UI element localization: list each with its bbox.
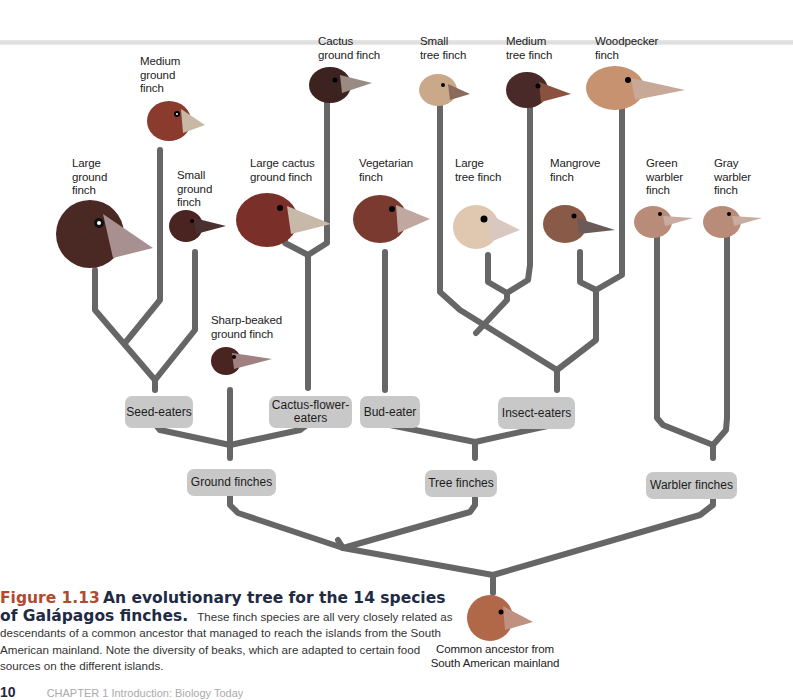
- page-number: 10: [0, 684, 16, 700]
- large-cactus-ground-finch-head-icon: [235, 190, 333, 248]
- gray-warbler-finch-head-icon: [702, 204, 764, 240]
- figure-number: Figure 1.13: [0, 589, 100, 607]
- label-vegetarian-finch: Vegetarian finch: [359, 157, 413, 184]
- small-ground-finch-head-icon: [168, 208, 228, 244]
- label-green-warbler-finch: Green warbler finch: [646, 157, 683, 198]
- figure-caption: Figure 1.13 An evolutionary tree for the…: [0, 590, 455, 675]
- mangrove-finch-head-icon: [541, 204, 616, 246]
- label-mangrove-finch: Mangrove finch: [550, 157, 600, 184]
- group-bud-eater: Bud-eater: [360, 396, 420, 428]
- group-cactus-flower-eaters: Cactus-flower- eaters: [269, 396, 352, 428]
- label-small-ground-finch: Small ground finch: [177, 169, 212, 210]
- label-gray-warbler-finch: Gray warbler finch: [714, 157, 751, 198]
- group-insect-eaters: Insect-eaters: [498, 397, 575, 429]
- group-seed-eaters: Seed-eaters: [125, 396, 193, 428]
- label-small-tree-finch: Small tree finch: [420, 35, 466, 62]
- cactus-ground-finch-head-icon: [308, 65, 373, 105]
- label-medium-ground-finch: Medium ground finch: [140, 55, 180, 96]
- group-ground-finches: Ground finches: [187, 469, 276, 496]
- label-large-cactus-ground-finch: Large cactus ground finch: [250, 157, 315, 184]
- label-large-tree-finch: Large tree finch: [455, 157, 501, 184]
- label-large-ground-finch: Large ground finch: [72, 157, 107, 198]
- medium-tree-finch-head-icon: [505, 68, 573, 112]
- large-tree-finch-head-icon: [452, 202, 522, 252]
- label-woodpecker-finch: Woodpecker finch: [595, 35, 658, 62]
- label-cactus-ground-finch: Cactus ground finch: [318, 35, 380, 62]
- medium-ground-finch-head-icon: [145, 95, 207, 145]
- large-ground-finch-head-icon: [55, 196, 155, 271]
- sharp-beaked-ground-finch-head-icon: [210, 345, 274, 377]
- vegetarian-finch-head-icon: [352, 193, 432, 245]
- small-tree-finch-head-icon: [418, 70, 473, 110]
- group-tree-finches: Tree finches: [425, 470, 497, 497]
- page-footer: 10 CHAPTER 1 Introduction: Biology Today: [0, 684, 400, 698]
- green-warbler-finch-head-icon: [633, 204, 695, 240]
- chapter-running-head: CHAPTER 1 Introduction: Biology Today: [47, 687, 244, 699]
- label-medium-tree-finch: Medium tree finch: [506, 35, 552, 62]
- group-warbler-finches: Warbler finches: [646, 472, 737, 499]
- woodpecker-finch-head-icon: [585, 62, 687, 114]
- common-ancestor-head-icon: [465, 592, 535, 644]
- label-sharp-beaked-ground-finch: Sharp-beaked ground finch: [211, 314, 282, 341]
